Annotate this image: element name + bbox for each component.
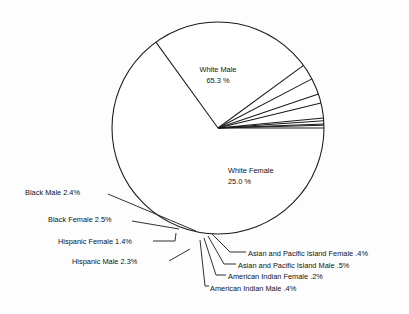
label-white-male-name: White Male (200, 65, 237, 74)
leader-amerind-male (200, 240, 209, 286)
label-white-female-name: White Female (228, 166, 274, 175)
label-white-male-value: 65.3 % (206, 76, 229, 85)
label-amerind-female: American Indian Female .2% (228, 272, 323, 281)
label-black-male: Black Male 2.4% (25, 188, 80, 197)
label-white-female-value: 25.0 % (228, 177, 251, 186)
leader-hispanic-male (169, 249, 190, 261)
label-amerind-male: American Indian Male .4% (210, 284, 297, 293)
pie-chart: White Male 65.3 % White Female 25.0 % Bl… (0, 0, 409, 314)
label-black-female: Black Female 2.5% (48, 215, 112, 224)
label-asian-female: Asian and Pacific Island Female .4% (248, 249, 368, 258)
label-hispanic-female: Hispanic Female 1.4% (58, 237, 132, 246)
leader-asian-female (212, 234, 246, 252)
leader-asian-male (208, 236, 236, 264)
leader-amerind-female (204, 238, 226, 275)
leader-hispanic-female (153, 233, 176, 241)
label-asian-male: Asian and Pacific Island Male .5% (238, 261, 350, 270)
pie-chart-svg: White Male 65.3 % White Female 25.0 % Bl… (0, 0, 409, 314)
label-hispanic-male: Hispanic Male 2.3% (72, 257, 138, 266)
